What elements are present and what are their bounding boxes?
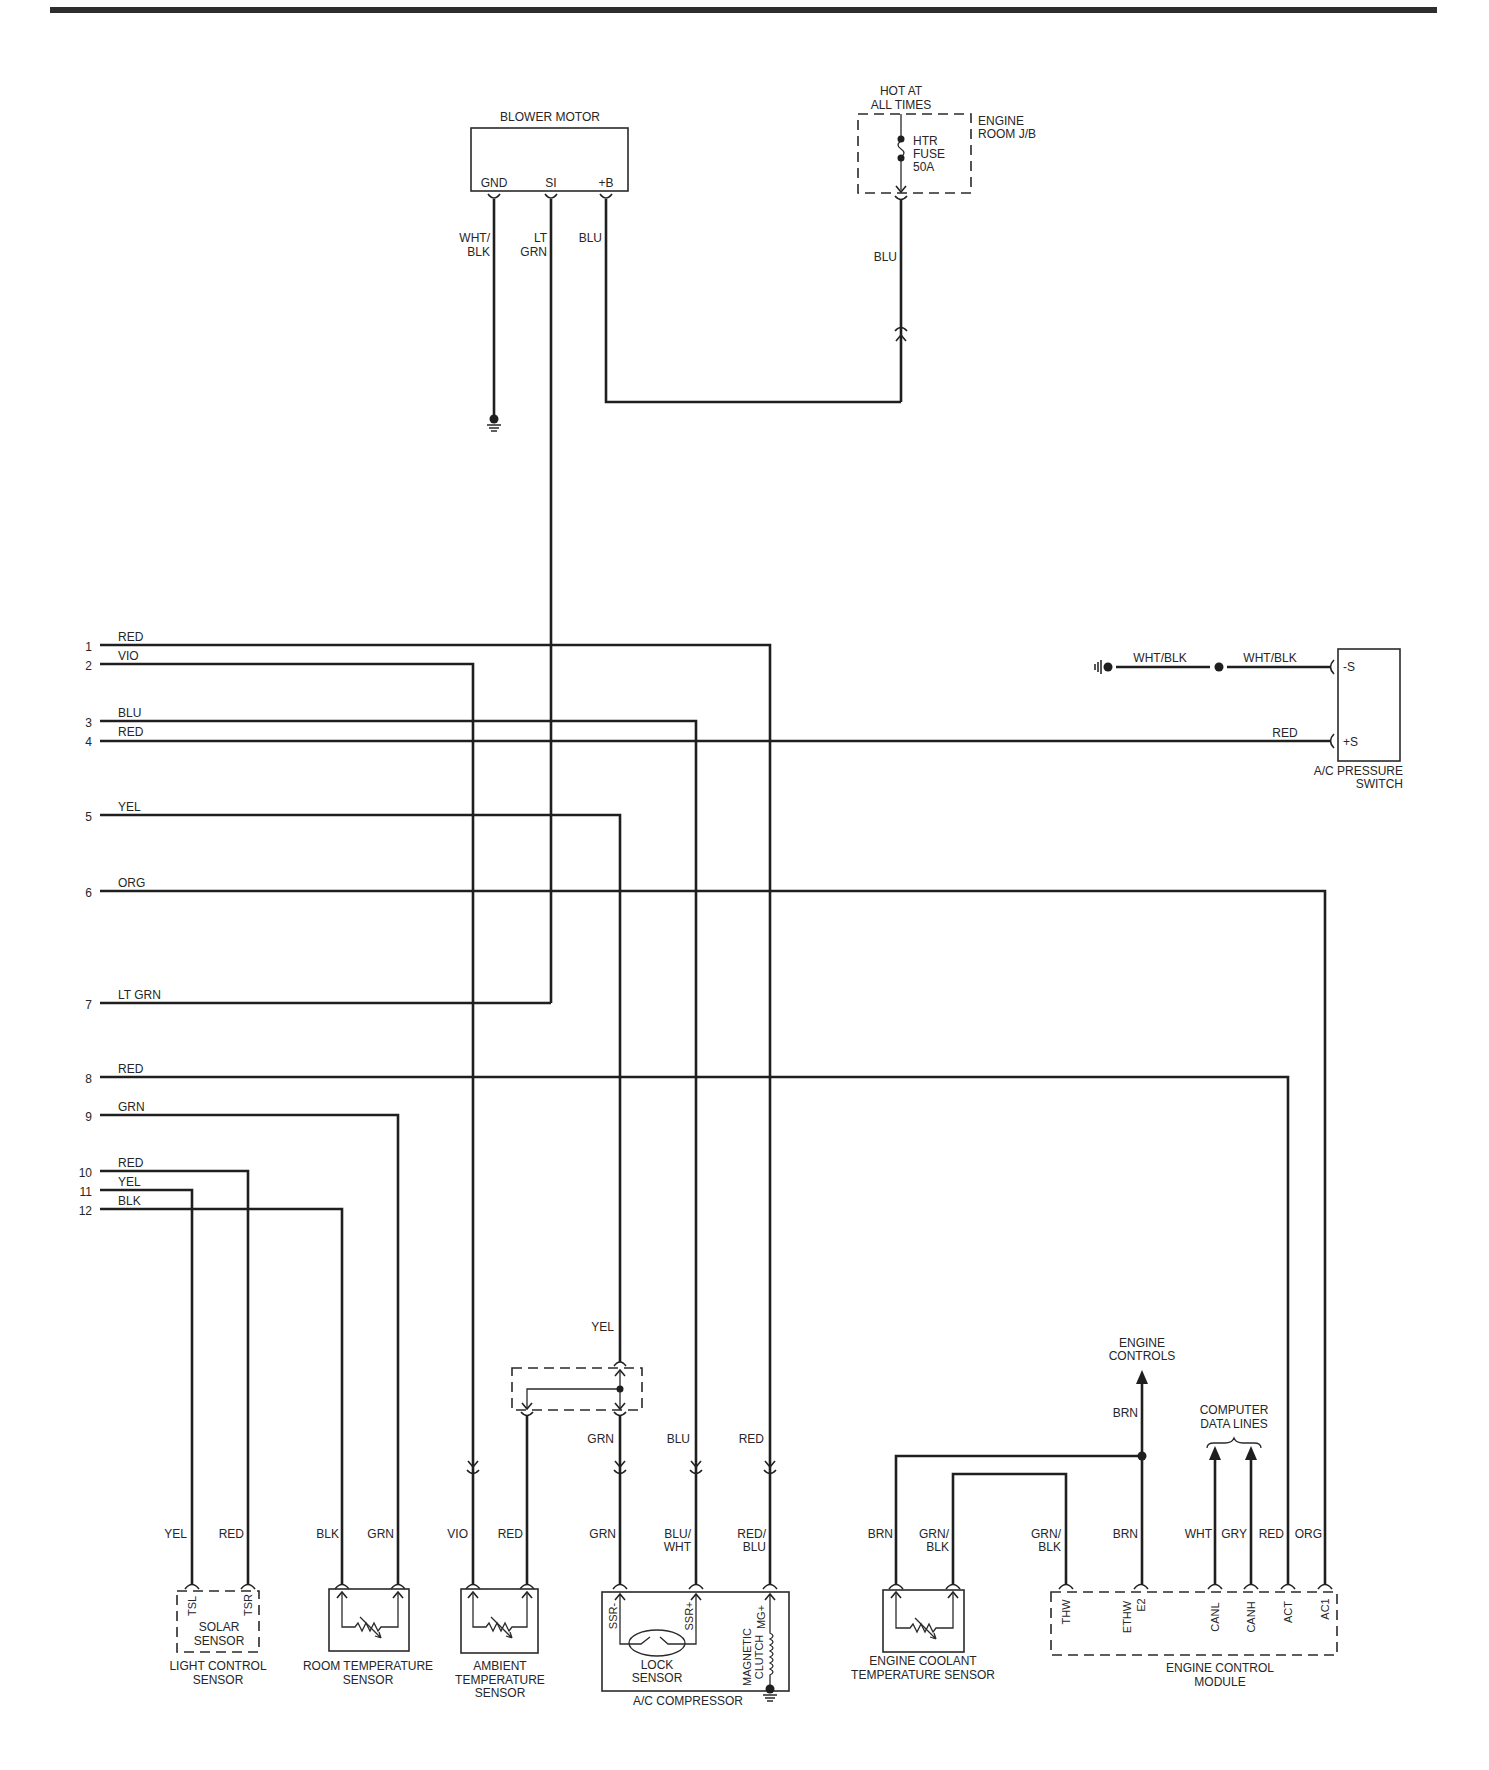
- pressure-switch-name: SWITCH: [1356, 777, 1403, 791]
- wire-label: BRN: [1113, 1527, 1138, 1541]
- wire-label: ORG: [118, 876, 145, 890]
- wire-label: GRN/: [919, 1527, 950, 1541]
- engine-control-module: THW ETHW E2 CANL CANH ACT AC1 ENGINE CON…: [1031, 1527, 1337, 1689]
- wire-label: RED: [118, 1156, 144, 1170]
- wire-can-bus: [1215, 1458, 1251, 1584]
- pressure-switch-name: A/C PRESSURE: [1314, 764, 1403, 778]
- pin-mg-plus: MG+: [755, 1605, 767, 1629]
- wire-label: BLK: [926, 1540, 949, 1554]
- component-name: ENGINE COOLANT: [869, 1654, 977, 1668]
- wire-label: WHT: [1185, 1527, 1213, 1541]
- component-name: ENGINE CONTROL: [1166, 1661, 1274, 1675]
- pin-number: 8: [85, 1072, 92, 1086]
- pin-canl: CANL: [1209, 1602, 1221, 1631]
- ac-pressure-switch: -S +S A/C PRESSURE SWITCH WHT/BLK WHT/BL…: [1095, 649, 1403, 791]
- splice-dot: [1215, 663, 1224, 672]
- wire-label: GRN: [118, 1100, 145, 1114]
- thermistor-icon: [342, 1592, 398, 1638]
- wire-label: YEL: [164, 1527, 187, 1541]
- header-rule: [50, 7, 1437, 13]
- blower-motor: BLOWER MOTOR GND SI +B WHT/ BLK LT GRN B…: [459, 110, 628, 259]
- component-name: ROOM TEMPERATURE: [303, 1659, 433, 1673]
- wire-label: VIO: [118, 649, 139, 663]
- wire-label: WHT/BLK: [1133, 651, 1186, 665]
- wire-label: RED/: [737, 1527, 766, 1541]
- wire-label: RED: [498, 1527, 524, 1541]
- blower-pin-gnd: GND: [481, 176, 508, 190]
- pin-number: 10: [79, 1166, 93, 1180]
- pin-act: ACT: [1282, 1601, 1294, 1623]
- wire-label: RED: [118, 725, 144, 739]
- wire-label: BLU: [743, 1540, 766, 1554]
- wire-label: RED: [118, 630, 144, 644]
- wire-label: VIO: [447, 1527, 468, 1541]
- fuse-label: HTR: [913, 134, 938, 148]
- pin-icon: [337, 1592, 403, 1598]
- wire-label: WHT: [664, 1540, 692, 1554]
- pin-ac1: AC1: [1319, 1598, 1331, 1619]
- pin-number: 12: [79, 1204, 93, 1218]
- wire-label: BLU: [118, 706, 141, 720]
- wiring-diagram-page: BLOWER MOTOR GND SI +B WHT/ BLK LT GRN B…: [0, 0, 1489, 1770]
- engine-coolant-temperature-sensor: ENGINE COOLANT TEMPERATURE SENSOR BRN GR…: [851, 1527, 995, 1682]
- fuse-label: FUSE: [913, 147, 945, 161]
- computer-data-lines-label: DATA LINES: [1200, 1417, 1268, 1431]
- arrow-up-icon: [1209, 1446, 1221, 1460]
- pin-icon: [468, 1592, 532, 1598]
- blower-pin-b: +B: [598, 176, 613, 190]
- clutch-coil-icon: [770, 1594, 773, 1686]
- pin-ssr-plus: SSR+: [683, 1601, 695, 1630]
- pressure-switch-pin-pos: +S: [1343, 735, 1358, 749]
- room-temperature-sensor: ROOM TEMPERATURE SENSOR BLK GRN: [303, 1527, 433, 1687]
- ambient-temperature-sensor: AMBIENT TEMPERATURE SENSOR VIO RED: [447, 1527, 545, 1700]
- thermistor-icon: [473, 1592, 527, 1638]
- pin-number: 9: [85, 1110, 92, 1124]
- pressure-switch-pin-neg: -S: [1343, 660, 1355, 674]
- lock-sensor-label: SENSOR: [632, 1671, 683, 1685]
- wire-label: BLU/: [664, 1527, 691, 1541]
- harness-row-10: 10 RED: [79, 1156, 248, 1584]
- engine-room-junction-block: HOT AT ALL TIMES ENGINE ROOM J/B HTR FUS…: [858, 84, 1036, 200]
- thermistor-icon: [896, 1592, 953, 1639]
- component-name: SENSOR: [475, 1686, 526, 1700]
- wire-label: ORG: [1295, 1527, 1322, 1541]
- harness-row-12: 12 BLK: [79, 1194, 342, 1584]
- component-name: TEMPERATURE: [455, 1673, 545, 1687]
- component-name: SENSOR: [193, 1673, 244, 1687]
- pin-e2: E2: [1135, 1598, 1147, 1611]
- wire-label: RED: [1259, 1527, 1285, 1541]
- harness-row-11: 11 YEL: [80, 1175, 192, 1584]
- pin-number: 2: [85, 659, 92, 673]
- wire-blower-b: [606, 199, 901, 402]
- pin-number: 7: [85, 998, 92, 1012]
- ground-icon: [763, 1685, 777, 1702]
- harness-row-8: 8 RED: [85, 1062, 1288, 1584]
- fuse-icon: [898, 114, 905, 190]
- component-name: AMBIENT: [473, 1659, 527, 1673]
- pin-number: 4: [85, 735, 92, 749]
- wire-label: LT: [534, 231, 548, 245]
- pin-number: 1: [85, 640, 92, 654]
- wire-label: GRY: [1221, 1527, 1247, 1541]
- splice-dot: [1138, 1452, 1147, 1461]
- wire-label: BLK: [1038, 1540, 1061, 1554]
- pin-icon: [891, 1592, 958, 1598]
- wire-label: GRN: [367, 1527, 394, 1541]
- wire-label: YEL: [591, 1320, 614, 1334]
- pin-icon: [615, 1594, 775, 1600]
- computer-data-lines-label: COMPUTER: [1200, 1403, 1269, 1417]
- junction-connector: YEL GRN: [512, 1320, 642, 1446]
- wire-label: BLU: [579, 231, 602, 245]
- component-name: MODULE: [1194, 1675, 1245, 1689]
- pin-tsl: TSL: [186, 1596, 198, 1616]
- junction-block-name: ENGINE: [978, 114, 1024, 128]
- arrow-up-icon: [1245, 1446, 1257, 1460]
- wire-label: WHT/: [459, 231, 490, 245]
- pin-tsr: TSR: [242, 1594, 254, 1616]
- computer-data-lines-reference: COMPUTER DATA LINES: [1200, 1403, 1269, 1584]
- wire-label: GRN/: [1031, 1527, 1062, 1541]
- hot-at-all-times-label: HOT AT: [880, 84, 923, 98]
- solar-sensor-label: SENSOR: [194, 1634, 245, 1648]
- wire-label: LT GRN: [118, 988, 161, 1002]
- wire-label: YEL: [118, 800, 141, 814]
